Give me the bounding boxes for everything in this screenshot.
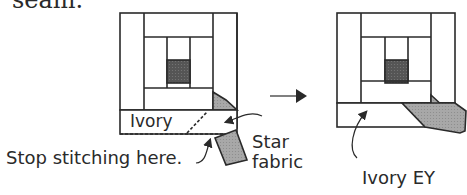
right-arrow-icon [270, 89, 307, 103]
body-text-fragment: seam. [12, 0, 83, 14]
star-label-line2: fabric [252, 152, 303, 172]
ivory-label: Ivory [130, 111, 173, 131]
after-block [337, 13, 466, 133]
star-label-line1: Star [252, 132, 303, 152]
center-square [167, 60, 190, 83]
stop-stitching-label: Stop stitching here. [6, 147, 182, 168]
center-square [385, 60, 408, 83]
before-block [120, 13, 247, 165]
star-fabric-label: Star fabric [252, 132, 303, 172]
ivory-ey-label: Ivory EY [362, 167, 435, 188]
